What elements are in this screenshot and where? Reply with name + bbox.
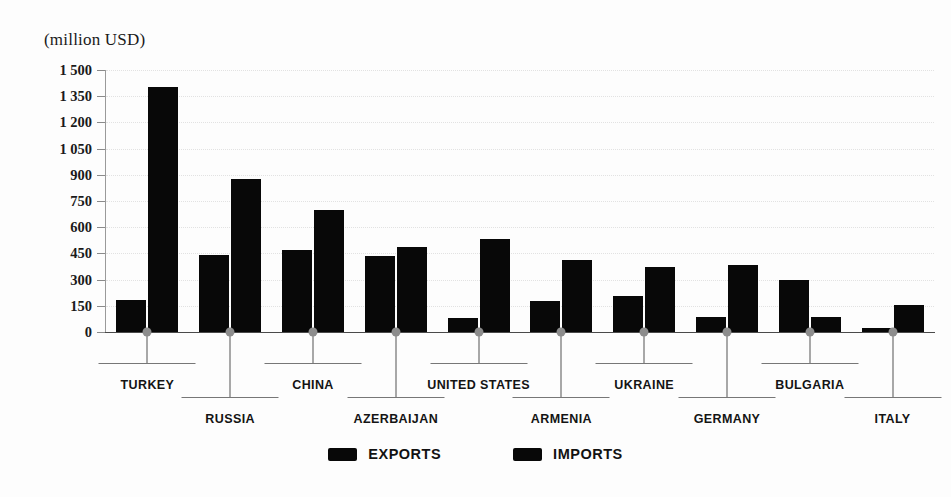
bar-imports <box>728 265 758 332</box>
category-label-ukraine: UKRAINE <box>614 378 674 392</box>
category-rule <box>679 397 776 398</box>
category-marker <box>391 328 400 337</box>
y-tick-label: 1 050 <box>26 140 92 157</box>
bar-imports <box>231 179 261 332</box>
bar-exports <box>282 250 312 332</box>
category-rule <box>99 363 196 364</box>
category-label-bulgaria: BULGARIA <box>775 378 844 392</box>
y-tick-label: 600 <box>26 219 92 236</box>
bar-exports <box>116 300 146 332</box>
category-rule <box>761 363 858 364</box>
category-leader-line <box>727 333 728 397</box>
category-leader-line <box>644 333 645 363</box>
axis-unit-label: (million USD) <box>44 30 145 50</box>
category-rule <box>347 397 444 398</box>
category-marker <box>805 328 814 337</box>
category-leader-line <box>809 333 810 363</box>
category-rule <box>265 363 362 364</box>
category-leader-line <box>313 333 314 363</box>
category-rule <box>596 363 693 364</box>
category-leader-line <box>892 333 893 397</box>
category-marker <box>888 328 897 337</box>
category-marker <box>309 328 318 337</box>
bar-exports <box>448 318 478 332</box>
bar-chart: (million USD) 01503004506007509001 0501 … <box>0 0 951 497</box>
legend-swatch-icon <box>328 448 357 461</box>
y-tick-label: 1 200 <box>26 114 92 131</box>
legend-label: EXPORTS <box>368 446 441 462</box>
category-marker <box>143 328 152 337</box>
category-leader-line <box>230 333 231 397</box>
bar-group <box>199 70 261 332</box>
y-tick-label: 1 350 <box>26 88 92 105</box>
category-leader-line <box>478 333 479 363</box>
bar-group <box>696 70 758 332</box>
y-tick-label: 900 <box>26 166 92 183</box>
category-marker <box>226 328 235 337</box>
bar-group <box>448 70 510 332</box>
category-marker <box>557 328 566 337</box>
category-label-united-states: UNITED STATES <box>427 378 530 392</box>
y-tick-label: 450 <box>26 245 92 262</box>
bar-group <box>530 70 592 332</box>
category-marker <box>723 328 732 337</box>
chart-legend: EXPORTSIMPORTS <box>0 446 951 462</box>
category-label-azerbaijan: AZERBAIJAN <box>354 412 439 426</box>
category-leader-line <box>561 333 562 397</box>
bar-imports <box>148 87 178 332</box>
bar-imports <box>480 239 510 332</box>
category-label-turkey: TURKEY <box>120 378 174 392</box>
category-marker <box>474 328 483 337</box>
bar-exports <box>613 296 643 332</box>
bar-imports <box>314 210 344 332</box>
bar-exports <box>696 317 726 332</box>
category-rule <box>844 397 941 398</box>
category-label-italy: ITALY <box>875 412 911 426</box>
bar-imports <box>397 247 427 332</box>
bar-group <box>779 70 841 332</box>
category-label-russia: RUSSIA <box>205 412 255 426</box>
y-tick-label: 1 500 <box>26 62 92 79</box>
category-label-germany: GERMANY <box>694 412 761 426</box>
legend-swatch-icon <box>513 448 542 461</box>
bar-group <box>862 70 924 332</box>
category-marker <box>640 328 649 337</box>
category-label-armenia: ARMENIA <box>531 412 592 426</box>
bar-exports <box>530 301 560 332</box>
bar-exports <box>779 280 809 332</box>
bar-group <box>116 70 178 332</box>
legend-label: IMPORTS <box>553 446 623 462</box>
category-rule <box>430 363 527 364</box>
category-rule <box>513 397 610 398</box>
bar-exports <box>365 256 395 332</box>
y-tick-label: 0 <box>26 324 92 341</box>
bar-group <box>282 70 344 332</box>
legend-item-imports[interactable]: IMPORTS <box>513 446 623 462</box>
legend-item-exports[interactable]: EXPORTS <box>328 446 441 462</box>
bar-exports <box>199 255 229 332</box>
category-leader-line <box>147 333 148 363</box>
category-rule <box>182 397 279 398</box>
y-tick-label: 300 <box>26 271 92 288</box>
bar-imports <box>562 260 592 332</box>
bar-exports <box>862 328 892 332</box>
plot-area <box>106 70 934 332</box>
category-leader-line <box>395 333 396 397</box>
bar-group <box>365 70 427 332</box>
bar-imports <box>811 317 841 332</box>
y-tick-label: 750 <box>26 193 92 210</box>
bar-imports <box>645 267 675 333</box>
y-tick-label: 150 <box>26 297 92 314</box>
bar-group <box>613 70 675 332</box>
category-label-china: CHINA <box>292 378 334 392</box>
bar-imports <box>894 305 924 332</box>
